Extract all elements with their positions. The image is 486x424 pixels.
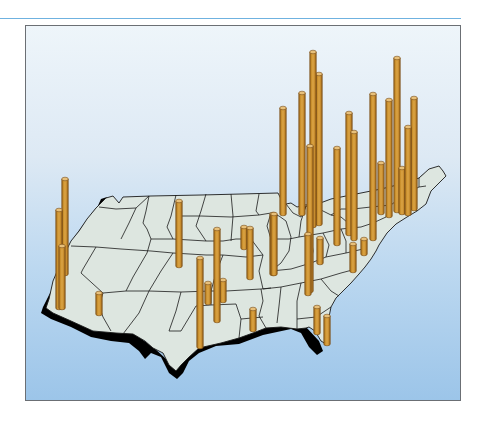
bar-body [399, 168, 406, 215]
bar-cylinder [411, 96, 418, 211]
bar-cylinder [399, 166, 406, 215]
bar-cylinder [370, 92, 377, 241]
bar-body [316, 74, 323, 226]
bar-body [351, 132, 358, 241]
bar-top-cap [378, 161, 385, 165]
bar-body [350, 244, 357, 273]
bar-top-cap [197, 256, 204, 260]
bar-top-cap [405, 125, 412, 129]
bar-body [299, 93, 306, 216]
bar-body [205, 283, 212, 305]
bar-body [250, 309, 257, 332]
bar-top-cap [316, 72, 323, 76]
bar-body [96, 293, 103, 316]
bar-cylinder [247, 226, 254, 280]
bar-cylinder [176, 199, 183, 268]
page: 3D relief map of the contiguous United S… [0, 0, 486, 424]
bar-top-cap [399, 166, 406, 170]
bar-cylinder [378, 161, 385, 215]
bar-top-cap [370, 92, 377, 96]
bar-body [271, 214, 278, 276]
bar-top-cap [307, 144, 314, 148]
bar-top-cap [314, 305, 321, 309]
bar-cylinder [316, 72, 323, 226]
bar-top-cap [59, 244, 66, 248]
bar-top-cap [305, 232, 312, 236]
bar-cylinder [386, 98, 393, 218]
bar-body [378, 163, 385, 215]
bar-top-cap [324, 314, 331, 318]
bar-top-cap [214, 227, 221, 231]
bar-cylinder [197, 256, 204, 349]
bar-top-cap [96, 291, 103, 295]
bar-body [59, 246, 66, 310]
bar-cylinder [361, 237, 368, 256]
bar-body [361, 239, 368, 256]
bar-top-cap [310, 50, 317, 54]
bar-cylinder [250, 307, 257, 332]
bar-body [197, 258, 204, 349]
map-figure: 3D relief map of the contiguous United S… [25, 25, 461, 401]
bar-top-cap [280, 106, 287, 110]
bar-top-cap [299, 91, 306, 95]
bar-body [370, 94, 377, 241]
bar-top-cap [394, 56, 401, 60]
bar-top-cap [361, 237, 368, 241]
bar-cylinder [334, 146, 341, 246]
bar-top-cap [250, 307, 257, 311]
bar-cylinder [59, 244, 66, 310]
bar-body [241, 227, 248, 250]
bar-body [305, 234, 312, 296]
bar-cylinder [241, 225, 248, 250]
bar-cylinder [350, 242, 357, 273]
bar-cylinder [205, 281, 212, 305]
bar-top-cap [220, 278, 227, 282]
bar-top-cap [56, 208, 63, 212]
bar-cylinder [305, 232, 312, 296]
bar-top-cap [350, 242, 357, 246]
bar-body [314, 307, 321, 335]
bar-cylinder [271, 212, 278, 276]
bar-cylinder [324, 314, 331, 346]
bar-cylinder [280, 106, 287, 216]
bar-body [334, 148, 341, 246]
bar-top-cap [334, 146, 341, 150]
bar-top-cap [247, 226, 254, 230]
bar-cylinder [220, 278, 227, 303]
bar-body [411, 98, 418, 211]
us-map-svg [26, 26, 461, 401]
bar-body [214, 229, 221, 323]
bar-body [317, 238, 324, 265]
bar-cylinder [96, 291, 103, 316]
bar-top-cap [351, 130, 358, 134]
bar-top-cap [62, 177, 69, 181]
bar-body [405, 127, 412, 216]
bar-top-cap [271, 212, 278, 216]
bar-top-cap [317, 236, 324, 240]
bar-cylinder [317, 236, 324, 265]
bar-body [324, 316, 331, 346]
bar-top-cap [346, 111, 353, 115]
bar-top-cap [176, 199, 183, 203]
bar-cylinder [405, 125, 412, 216]
header-rule [0, 18, 461, 19]
bar-cylinder [214, 227, 221, 323]
bar-top-cap [241, 225, 248, 229]
bar-cylinder [351, 130, 358, 241]
bar-cylinder [314, 305, 321, 335]
bar-body [220, 280, 227, 303]
bar-body [247, 228, 254, 280]
bar-body [386, 100, 393, 218]
bar-body [280, 108, 287, 216]
bar-top-cap [411, 96, 418, 100]
bar-body [176, 201, 183, 268]
bar-cylinder [299, 91, 306, 216]
bar-top-cap [386, 98, 393, 102]
bar-top-cap [205, 281, 212, 285]
